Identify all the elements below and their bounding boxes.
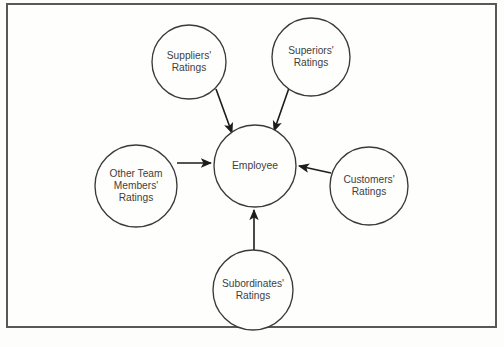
- diagram-graphic: Suppliers'RatingsSuperiors'RatingsOther …: [0, 0, 504, 347]
- arrow-customers-to-employee: [299, 166, 331, 173]
- node-superiors[interactable]: Superiors'Ratings: [272, 18, 350, 96]
- node-label-superiors: Superiors'Ratings: [288, 45, 334, 68]
- node-suppliers[interactable]: Suppliers'Ratings: [152, 25, 226, 99]
- node-customers[interactable]: Customers'Ratings: [330, 147, 408, 225]
- arrow-suppliers-to-employee: [216, 89, 232, 133]
- arrow-superiors-to-employee: [274, 88, 289, 131]
- node-layer: Suppliers'RatingsSuperiors'RatingsOther …: [95, 18, 408, 330]
- node-label-employee: Employee: [232, 160, 278, 171]
- node-subordinates[interactable]: Subordinates'Ratings: [213, 250, 293, 330]
- node-other-team-members[interactable]: Other TeamMembers'Ratings: [95, 145, 177, 227]
- node-employee[interactable]: Employee: [214, 125, 296, 207]
- node-label-suppliers: Suppliers'Ratings: [167, 50, 211, 73]
- diagram-canvas: Suppliers'RatingsSuperiors'RatingsOther …: [0, 0, 504, 347]
